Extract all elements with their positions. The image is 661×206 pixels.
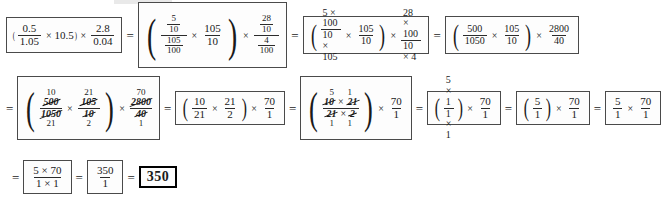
cancelled-product-step7: 5 1 10 × 21 21 × 2 1 1 [323,88,359,129]
equation-row-1: ( 0.5 1.05 × 10.5 ) × 2.8 0.04 = ( 5 1 [6,2,579,68]
paren-close-icon: ) [105,83,114,134]
equation-row-2: = ( 10 500 1050 21 × 21 105 10 2 ) × 70 [2,76,661,140]
expression-box-step4[interactable]: ( 500 1050 × 105 10 ) × 2800 40 [445,16,579,54]
fraction-numerator: 28 10 [260,14,273,34]
expression-box-step1[interactable]: ( 0.5 1.05 × 10.5 ) × 2.8 0.04 [6,17,122,53]
equals-sign: = [127,171,134,184]
fraction-step1-b: 2.8 0.04 [91,23,114,48]
times-symbol: × [627,103,633,114]
expression-box-step6[interactable]: ( 10 21 × 21 2 ) × 70 1 [175,91,285,125]
times-symbol: × [251,103,257,114]
equals-sign: = [433,29,440,42]
times-symbol: × [46,30,52,41]
cancel-labels-bottom: 1 1 [323,119,359,128]
cancelled-fraction-step5-a: 10 500 1050 21 [40,88,62,129]
fraction-step4-b: 2800 40 [547,24,571,47]
fraction-step11: 5 × 70 1 × 1 [31,165,63,190]
paren-open-icon: ( [453,18,459,52]
expression-box-step12[interactable]: 350 1 [87,160,124,194]
equals-sign: = [12,171,19,184]
equals-sign: = [594,102,601,115]
final-answer-value: 350 [147,169,170,185]
paren-close-icon: ) [228,9,237,62]
times-symbol: × [492,30,498,41]
paren-close-icon: ) [379,18,385,52]
cancelled-fraction-step5-c: 21 105 10 2 [78,88,100,129]
expression-box-step10[interactable]: 5 1 × 70 1 [605,91,661,125]
paren-open-icon: ( [524,93,529,123]
times-symbol: × [243,30,249,41]
paren-close-icon: ) [75,29,77,41]
fraction-denominator: 105 100 [165,36,183,56]
expression-box-step3[interactable]: ( 5 × 100 10 × 105 × 105 10 ) × 28 × 100… [303,16,430,54]
expression-box-step8[interactable]: ( 5 × 1 1 × 1 ) × 70 1 [427,91,501,125]
paren-open-icon: ( [26,83,35,134]
times-symbol: × [212,103,218,114]
times-symbol: × [338,97,344,107]
equals-sign: = [76,171,83,184]
fraction-step12: 350 1 [95,165,116,190]
times-symbol: × [467,103,473,114]
fraction-step6-a: 10 21 [192,96,207,121]
fraction-step4-a: 500 1050 [463,24,487,47]
fraction-step3-a: 5 × 100 10 × 105 [321,8,341,63]
complex-fraction-step2-b: 28 10 4 100 [254,14,280,56]
fraction-step9-b: 70 1 [567,96,582,121]
paren-open-icon: ( [435,93,440,123]
equation-row-3: = 5 × 70 1 × 1 = 350 1 = 350 [8,160,177,194]
fraction-step4-c: 105 10 [502,24,521,47]
fraction-step6-c: 21 2 [223,96,238,121]
times-symbol: × [67,103,73,114]
denominator-product: 21 × 2 [325,109,356,119]
times-symbol: × [390,30,396,41]
paren-open-icon: ( [311,18,317,52]
paren-close-icon: ) [363,83,372,134]
fraction-denominator: 4 100 [258,36,276,56]
equals-sign: = [289,102,296,115]
fraction-step3-b: 28 × 100 10 × 4 [401,8,421,63]
equals-sign: = [126,29,133,42]
paren-open-icon: ( [13,29,15,41]
equals-sign: = [164,102,171,115]
paren-close-icon: ) [546,93,551,123]
expression-box-step11[interactable]: 5 × 70 1 × 1 [23,160,71,194]
fraction-numerator: 5 10 [167,14,180,34]
times-symbol: × [346,30,352,41]
expression-box-step9[interactable]: ( 5 1 ) × 70 1 [516,91,589,125]
complex-fraction-step2-a: 5 10 105 100 [161,14,187,56]
fraction-step8-b: 70 1 [478,96,493,121]
paren-close-icon: ) [457,93,462,123]
factor-step1: 10.5 [55,29,74,41]
fraction-step8-a: 5 × 1 1 × 1 [444,75,454,141]
fraction-step1-a: 0.5 1.05 [18,23,41,48]
expression-box-step2[interactable]: ( 5 10 105 100 × 105 10 [138,2,287,68]
fraction-step10-a: 5 1 [613,96,623,121]
paren-close-icon: ) [241,93,246,123]
times-symbol: × [556,103,562,114]
equals-sign: = [416,102,423,115]
fraction-step3-c: 105 10 [356,24,375,47]
times-symbol: × [340,109,346,119]
times-symbol: × [536,30,542,41]
paren-open-icon: ( [309,83,318,134]
equals-sign: = [6,102,13,115]
fraction-step10-b: 70 1 [638,96,653,121]
times-symbol: × [80,30,86,41]
fraction-step6-b: 70 1 [262,96,277,121]
paren-open-icon: ( [183,93,188,123]
equals-sign: = [291,29,298,42]
cancelled-fraction-step5-b: 70 2800 40 1 [130,88,152,129]
numerator-product: 10 × 21 [323,97,359,107]
expression-box-step5[interactable]: ( 10 500 1050 21 × 21 105 10 2 ) × 70 28… [17,76,160,140]
times-symbol: × [378,103,384,114]
paren-close-icon: ) [525,18,531,52]
expression-box-step7[interactable]: ( 5 1 10 × 21 21 × 2 1 [300,76,412,140]
times-symbol: × [119,103,125,114]
fraction-step2-c: 105 10 [202,23,223,48]
final-answer-box[interactable]: 350 [139,166,178,188]
fraction-step7-b: 70 1 [389,96,404,121]
times-symbol: × [192,30,198,41]
equals-sign: = [505,102,512,115]
paren-open-icon: ( [147,9,156,62]
